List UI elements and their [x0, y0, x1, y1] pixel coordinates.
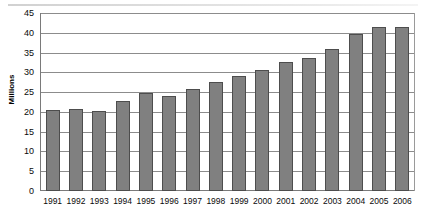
scan-artifact-line [8, 4, 418, 6]
bar-2000[interactable] [255, 70, 269, 191]
y-tick-label: 35 [0, 48, 34, 58]
bar-2006[interactable] [395, 27, 409, 191]
bar-slot [88, 13, 111, 191]
bar-slot [367, 13, 390, 191]
y-tick-label: 15 [0, 127, 34, 137]
y-tick-label: 0 [0, 186, 34, 196]
bar-1995[interactable] [139, 93, 153, 191]
y-tick-label: 25 [0, 87, 34, 97]
bar-slot [228, 13, 251, 191]
y-tick-label: 30 [0, 67, 34, 77]
bar-1993[interactable] [92, 111, 106, 191]
y-tick-label: 5 [0, 166, 34, 176]
bar-series [41, 13, 414, 191]
bar-slot [274, 13, 297, 191]
bar-slot [111, 13, 134, 191]
x-tick-label: 1998 [204, 194, 227, 210]
bar-1992[interactable] [69, 109, 83, 191]
bar-1998[interactable] [209, 82, 223, 191]
bar-2001[interactable] [279, 62, 293, 191]
bar-slot [344, 13, 367, 191]
x-tick-label: 1995 [134, 194, 157, 210]
y-tick-label: 45 [0, 8, 34, 18]
bar-1994[interactable] [116, 101, 130, 191]
x-tick-label: 2001 [274, 194, 297, 210]
y-tick-label: 20 [0, 107, 34, 117]
bar-slot [41, 13, 64, 191]
bar-2005[interactable] [372, 27, 386, 191]
bar-slot [158, 13, 181, 191]
x-tick-label: 1991 [41, 194, 64, 210]
x-tick-label: 1993 [88, 194, 111, 210]
bar-slot [134, 13, 157, 191]
bar-1996[interactable] [162, 96, 176, 191]
y-tick-label: 40 [0, 28, 34, 38]
x-axis-tick-labels: 1991199219931994199519961997199819992000… [41, 194, 414, 210]
bar-1999[interactable] [232, 76, 246, 191]
bar-2002[interactable] [302, 58, 316, 191]
x-tick-label: 2003 [321, 194, 344, 210]
x-tick-label: 1996 [158, 194, 181, 210]
bar-slot [321, 13, 344, 191]
bar-slot [251, 13, 274, 191]
bar-2003[interactable] [325, 49, 339, 191]
x-tick-label: 2000 [251, 194, 274, 210]
bar-1991[interactable] [46, 110, 60, 191]
x-tick-label: 1994 [111, 194, 134, 210]
plot-right-border [414, 13, 415, 191]
bar-1997[interactable] [186, 89, 200, 191]
bar-chart: Millions 051015202530354045 199119921993… [0, 0, 424, 215]
y-tick-label: 10 [0, 146, 34, 156]
bar-slot [181, 13, 204, 191]
x-tick-label: 1999 [228, 194, 251, 210]
x-tick-label: 1992 [64, 194, 87, 210]
bar-2004[interactable] [349, 34, 363, 191]
bar-slot [297, 13, 320, 191]
x-tick-label: 1997 [181, 194, 204, 210]
y-axis-tick-labels: 051015202530354045 [0, 13, 36, 191]
bar-slot [391, 13, 414, 191]
x-tick-label: 2006 [391, 194, 414, 210]
bar-slot [204, 13, 227, 191]
x-tick-label: 2002 [297, 194, 320, 210]
x-tick-label: 2004 [344, 194, 367, 210]
bar-slot [64, 13, 87, 191]
x-tick-label: 2005 [367, 194, 390, 210]
